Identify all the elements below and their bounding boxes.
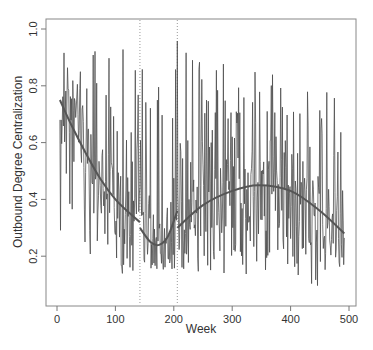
x-tick-label: 0 [54, 313, 60, 325]
x-tick-label: 500 [340, 313, 358, 325]
line-chart: 0100200300400500 0.20.40.60.81.0 Week Ou… [0, 0, 373, 350]
x-tick-label: 100 [106, 313, 124, 325]
y-axis-label: Outbound Degree Centralization [11, 76, 25, 248]
y-tick-label: 0.2 [27, 249, 39, 264]
data-series-line [60, 41, 344, 286]
y-tick-label: 0.4 [27, 192, 39, 207]
y-tick-label: 1.0 [27, 21, 39, 36]
y-axis: 0.20.40.60.81.0 [27, 21, 46, 263]
y-tick-label: 0.6 [27, 135, 39, 150]
x-tick-label: 200 [165, 313, 183, 325]
y-tick-label: 0.8 [27, 78, 39, 93]
weekly-series-line [60, 41, 344, 286]
x-tick-label: 300 [223, 313, 241, 325]
x-tick-label: 400 [281, 313, 299, 325]
x-axis-label: Week [186, 322, 217, 336]
